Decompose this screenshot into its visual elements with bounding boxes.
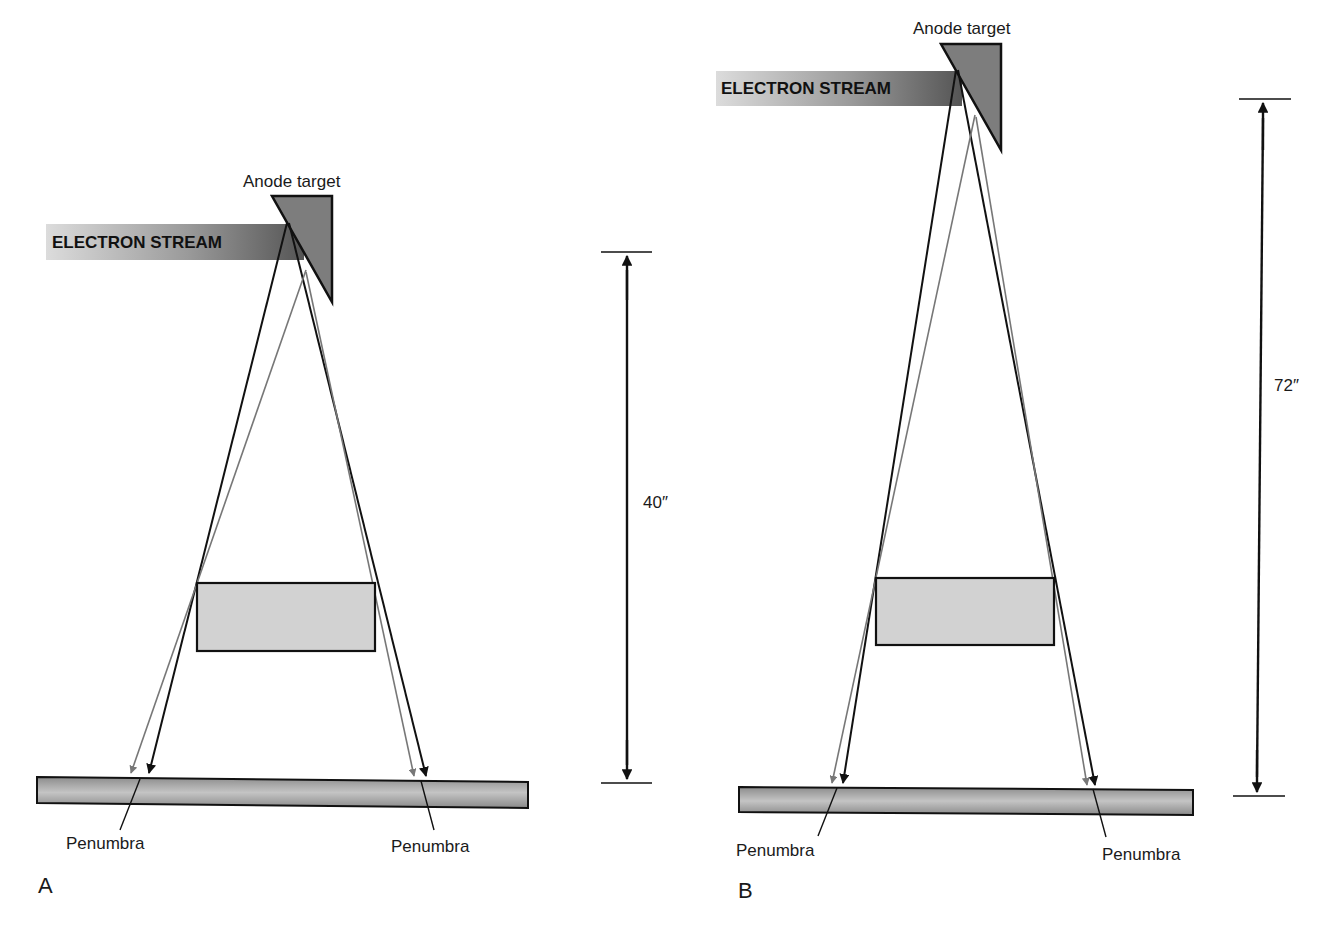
electron-stream-label-b: ELECTRON STREAM <box>721 79 891 98</box>
anode-label-a: Anode target <box>243 172 341 191</box>
distance-label-b: 72″ <box>1274 376 1299 395</box>
electron-stream-label-a: ELECTRON STREAM <box>52 233 222 252</box>
penumbra-left-label-a: Penumbra <box>66 834 145 853</box>
rays-primary-a <box>149 223 426 776</box>
panel-b: ELECTRON STREAM Anode target Penumbra Pe… <box>716 19 1299 903</box>
penumbra-right-label-a: Penumbra <box>391 837 470 856</box>
image-receptor-a <box>37 777 528 808</box>
electron-stream-b: ELECTRON STREAM <box>716 71 962 106</box>
distance-dimension-a: 40″ <box>601 252 668 783</box>
rays-secondary-a <box>131 270 414 776</box>
penumbra-sid-diagram: ELECTRON STREAM Anode target Penumbra Pe… <box>0 0 1337 929</box>
panel-a: ELECTRON STREAM Anode target Penumbra Pe… <box>37 172 668 898</box>
distance-label-a: 40″ <box>643 493 668 512</box>
panel-label-a: A <box>38 873 53 898</box>
object-a <box>197 583 375 651</box>
rays-secondary-b <box>832 115 1087 785</box>
electron-stream-a: ELECTRON STREAM <box>46 224 304 260</box>
image-receptor-b <box>739 787 1193 815</box>
anode-label-b: Anode target <box>913 19 1011 38</box>
penumbra-right-label-b: Penumbra <box>1102 845 1181 864</box>
panel-label-b: B <box>738 878 753 903</box>
penumbra-left-label-b: Penumbra <box>736 841 815 860</box>
distance-dimension-b: 72″ <box>1233 99 1299 796</box>
object-b <box>876 578 1054 645</box>
rays-primary-b <box>843 70 1095 785</box>
